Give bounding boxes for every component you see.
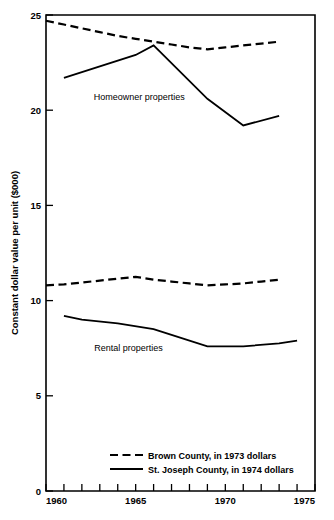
y-tick-label: 10 <box>30 295 41 306</box>
y-tick-label: 15 <box>30 200 41 211</box>
chart-figure: 0510152025 1960196519701975 Constant dol… <box>0 0 334 520</box>
series-layer <box>46 21 297 347</box>
y-tick-label: 25 <box>30 10 41 21</box>
y-axis: 0510152025 <box>30 10 53 497</box>
y-tick-label: 20 <box>30 105 41 116</box>
annotation-layer: Homeowner propertiesRental properties <box>94 92 186 353</box>
series-annotation-label: Rental properties <box>94 343 163 353</box>
series-line <box>64 316 297 346</box>
x-tick-label: 1975 <box>294 495 316 506</box>
y-tick-label: 5 <box>36 390 42 401</box>
y-tick-label: 0 <box>36 486 41 497</box>
x-axis: 1960196519701975 <box>46 484 316 506</box>
series-line <box>46 277 279 286</box>
x-tick-label: 1965 <box>125 495 147 506</box>
x-tick-label: 1960 <box>46 495 67 506</box>
legend-item-label: St. Joseph County, in 1974 dollars <box>148 465 294 475</box>
series-annotation-label: Homeowner properties <box>94 92 186 102</box>
chart-legend: Brown County, in 1973 dollarsSt. Joseph … <box>110 451 294 475</box>
series-line <box>64 45 279 125</box>
line-chart: 0510152025 1960196519701975 Constant dol… <box>0 0 334 520</box>
x-tick-label: 1970 <box>215 495 236 506</box>
plot-frame <box>46 15 315 491</box>
series-line <box>46 21 279 50</box>
y-axis-title: Constant dollar value per unit ($000) <box>9 171 20 335</box>
legend-item-label: Brown County, in 1973 dollars <box>148 451 276 461</box>
